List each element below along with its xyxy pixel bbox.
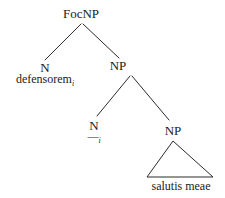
- terminal-defensorem-text: defensorem: [16, 72, 72, 86]
- branch-np-to-trace-n: [97, 76, 130, 116]
- branch-np-to-inner-np: [132, 76, 169, 120]
- trace-dash: —: [87, 130, 98, 142]
- terminal-defensorem: defensoremi: [16, 73, 74, 85]
- abbreviation-triangle: [147, 141, 213, 177]
- branch-root-to-right-np: [83, 24, 119, 58]
- node-label-root: FocNP: [63, 7, 99, 20]
- terminal-salutis-meae: salutis meae: [152, 180, 211, 192]
- branch-root-to-left-n: [45, 24, 81, 60]
- node-label-inner-np: NP: [165, 124, 182, 137]
- tree-branches-svg: [0, 0, 225, 198]
- terminal-defensorem-index: i: [72, 79, 74, 88]
- node-label-right-np: NP: [110, 59, 127, 72]
- trace-index: i: [98, 136, 100, 145]
- syntax-tree-diagram: FocNP N defensoremi NP N —i NP salutis m…: [0, 0, 225, 198]
- trace-marker: —i: [87, 131, 100, 142]
